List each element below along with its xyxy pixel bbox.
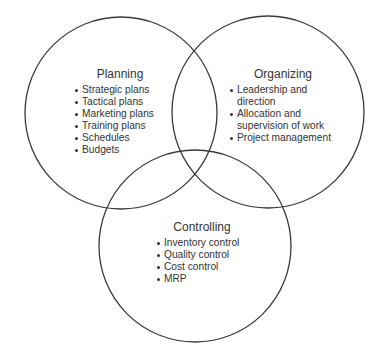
- organizing-item-line: Allocation and: [237, 108, 301, 119]
- planning-item: Tactical plans: [74, 96, 174, 108]
- planning-item: Marketing plans: [74, 108, 174, 120]
- controlling-list: Inventory control Quality control Cost c…: [156, 237, 256, 285]
- organizing-item-line: direction: [237, 96, 276, 107]
- planning-set: Planning Strategic plans Tactical plans …: [74, 67, 174, 156]
- planning-item: Budgets: [74, 144, 174, 156]
- controlling-item: Quality control: [156, 249, 256, 261]
- controlling-title: Controlling: [148, 220, 256, 234]
- organizing-list: Leadership and direction Allocation and …: [229, 84, 339, 144]
- planning-item: Training plans: [74, 120, 174, 132]
- planning-title: Planning: [66, 67, 174, 81]
- planning-item: Schedules: [74, 132, 174, 144]
- planning-list: Strategic plans Tactical plans Marketing…: [74, 84, 174, 156]
- organizing-item-line: Leadership and: [237, 84, 307, 95]
- organizing-item-line: supervision of work: [237, 120, 324, 131]
- organizing-title: Organizing: [227, 67, 339, 81]
- controlling-item: Inventory control: [156, 237, 256, 249]
- controlling-set: Controlling Inventory control Quality co…: [156, 220, 256, 285]
- planning-item: Strategic plans: [74, 84, 174, 96]
- venn-diagram: [0, 0, 377, 357]
- organizing-item: Project management: [229, 132, 339, 144]
- controlling-item: Cost control: [156, 261, 256, 273]
- organizing-item-line: Project management: [237, 132, 331, 143]
- organizing-item: Allocation and supervision of work: [229, 108, 339, 132]
- organizing-set: Organizing Leadership and direction Allo…: [229, 67, 339, 144]
- organizing-item: Leadership and direction: [229, 84, 339, 108]
- controlling-item: MRP: [156, 273, 256, 285]
